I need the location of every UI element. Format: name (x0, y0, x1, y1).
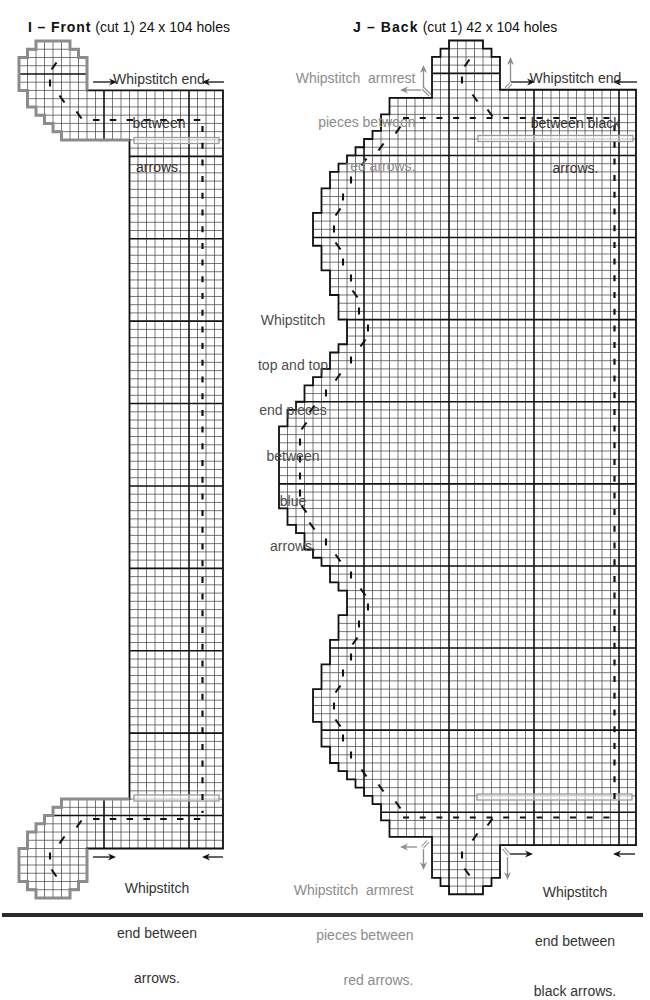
front-title-detail: (cut 1) 24 x 104 holes (95, 19, 230, 35)
back-bottom-left-left-arrow-icon (400, 844, 417, 851)
note-line: arrows. (99, 160, 219, 175)
back-top-right-leader (505, 83, 512, 90)
back-bottom-right-down-arrow-icon (504, 857, 511, 880)
back-title-detail: (cut 1) 42 x 104 holes (423, 19, 558, 35)
note-line: Whipstitch armrest (275, 71, 416, 86)
note-line: red arrows. (273, 973, 414, 988)
note-line: pieces between (273, 928, 414, 943)
back-middle-left-note: Whipstitch top and top end pieces betwee… (248, 283, 338, 570)
note-line: end between (97, 926, 217, 941)
note-line: end pieces (248, 403, 338, 418)
note-line: arrows. (97, 971, 217, 986)
note-line: Whipstitch (248, 313, 338, 328)
back-bottom-right-note: Whipstitch end between black arrows. (515, 851, 635, 1000)
note-line: top and top (248, 358, 338, 373)
note-line: pieces between (275, 115, 416, 130)
back-top-right-up-arrow-icon (507, 57, 514, 82)
back-bottom-left-armrest-note: Whipstitch armrest pieces between red ar… (273, 853, 414, 1000)
note-line: between (248, 449, 338, 464)
front-bottom-note: Whipstitch end between arrows. (97, 851, 217, 1000)
note-line: Whipstitch (515, 884, 635, 901)
back-piece-title: J – Back(cut 1) 42 x 104 holes (353, 19, 557, 35)
note-line: Whipstitch armrest (273, 883, 414, 898)
note-line: red arrows. (275, 159, 416, 174)
front-top-note: Whipstitch end between arrows. (99, 43, 219, 190)
note-line: between black (516, 116, 636, 131)
back-bottom-right-leader (503, 848, 511, 856)
back-top-left-armrest-note: Whipstitch armrest pieces between red ar… (275, 42, 416, 188)
note-line: end between (515, 933, 635, 950)
back-top-left-leader (422, 88, 431, 97)
back-bottom-left-down-arrow-icon (420, 849, 427, 870)
note-line: between (99, 116, 219, 131)
note-line: blue (248, 494, 338, 509)
back-bottom-left-leader (422, 841, 430, 849)
note-line: Whipstitch end (516, 71, 636, 86)
front-curl-stitch-ticks (50, 63, 82, 877)
front-bottom-overlap-band (134, 795, 219, 801)
back-bottom-overlap-band (477, 794, 632, 800)
back-title-label: J – Back (353, 19, 419, 35)
page-bottom-rule (2, 913, 643, 917)
back-top-left-up-arrow-icon (420, 65, 427, 88)
front-title-label: I – Front (28, 19, 91, 35)
note-line: Whipstitch end (99, 72, 219, 87)
note-line: arrows. (248, 539, 338, 554)
back-top-right-note: Whipstitch end between black arrows. (516, 41, 636, 191)
front-piece-title: I – Front(cut 1) 24 x 104 holes (28, 19, 230, 35)
note-line: Whipstitch (97, 881, 217, 896)
note-line: arrows. (516, 161, 636, 176)
note-line: black arrows. (515, 983, 635, 1000)
